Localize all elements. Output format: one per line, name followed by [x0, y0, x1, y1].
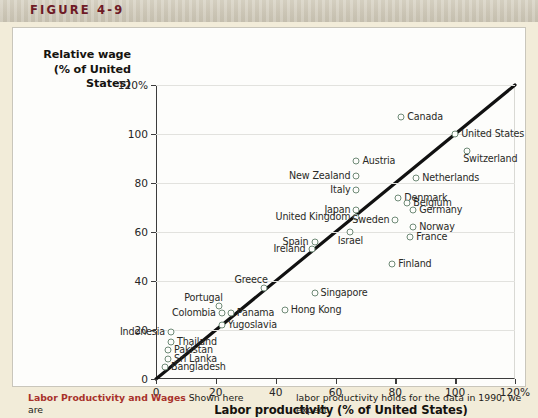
data-point [410, 206, 417, 213]
caption-right-column: labor productivity holds for the data in… [296, 392, 538, 416]
data-point [311, 238, 318, 245]
x-tick-mark [515, 379, 516, 384]
caption-left-column: Labor Productivity and Wages Shown here … [28, 392, 254, 416]
data-point-label: Netherlands [422, 173, 479, 183]
data-point [227, 309, 234, 316]
data-point-label: United Kingdom [276, 213, 351, 223]
y-gridline [156, 232, 515, 233]
data-point [161, 363, 168, 370]
data-point [353, 157, 360, 164]
data-point-label: Sweden [352, 215, 389, 225]
data-point-label: Finland [398, 259, 431, 269]
y-tick-mark [151, 134, 156, 135]
data-point [389, 260, 396, 267]
data-point [167, 329, 174, 336]
scatter-plot-area: 020406080100120%020406080100120%CanadaUn… [156, 85, 515, 379]
y-gridline [156, 330, 515, 331]
x-tick-mark [276, 379, 277, 384]
y-gridline [156, 281, 515, 282]
y-gridline [156, 85, 515, 86]
data-point [407, 233, 414, 240]
caption-title: Labor Productivity and Wages [28, 392, 186, 403]
data-point [215, 302, 222, 309]
x-tick-mark [455, 379, 456, 384]
data-point-label: Yugoslavia [228, 320, 277, 330]
y-axis-title-line-1: Relative wage [27, 48, 131, 63]
data-point [410, 224, 417, 231]
y-tick-label: 120% [118, 80, 148, 91]
data-point-label: Bangladesh [171, 362, 226, 372]
y-tick-mark [151, 281, 156, 282]
y-axis-title-line-3: States) [27, 77, 131, 92]
data-point [353, 172, 360, 179]
y-axis-title-line-2: (% of United [27, 63, 131, 78]
data-point-label: Panama [237, 308, 275, 318]
data-point [398, 113, 405, 120]
data-point-label: Portugal [184, 293, 223, 303]
x-tick-mark [156, 379, 157, 384]
data-point-label: United States [461, 129, 524, 139]
y-tick-label: 80 [135, 178, 148, 189]
data-point-label: Colombia [172, 308, 216, 318]
data-point-label: Ireland [273, 244, 305, 254]
data-point-label: Italy [330, 186, 350, 196]
data-point [218, 309, 225, 316]
figure-root: FIGURE 4-9 Relative wage (% of United St… [0, 0, 538, 418]
x-tick-label: 40 [269, 387, 282, 398]
x-tick-mark [336, 379, 337, 384]
data-point-label: Singapore [321, 288, 368, 298]
y-tick-label: 100 [128, 129, 148, 140]
data-point [353, 187, 360, 194]
data-point [392, 216, 399, 223]
data-point [395, 194, 402, 201]
y-tick-label: 60 [135, 227, 148, 238]
data-point [311, 290, 318, 297]
figure-panel: Relative wage (% of United States) 02040… [12, 27, 526, 387]
data-point-label: Hong Kong [291, 306, 342, 316]
data-point [353, 206, 360, 213]
data-point-label: Israel [338, 236, 363, 246]
y-tick-label: 0 [141, 374, 148, 385]
data-point-label: Greece [234, 276, 267, 286]
y-tick-mark [151, 85, 156, 86]
data-point [164, 346, 171, 353]
data-point [308, 246, 315, 253]
data-point [260, 285, 267, 292]
data-point [404, 199, 411, 206]
data-point [452, 131, 459, 138]
x-tick-mark [395, 379, 396, 384]
data-point-label: New Zealand [289, 171, 350, 181]
y-tick-mark [151, 232, 156, 233]
y-tick-mark [151, 183, 156, 184]
y-axis-title: Relative wage (% of United States) [27, 48, 131, 92]
data-point [218, 322, 225, 329]
data-point-label: Canada [407, 112, 443, 122]
data-point-label: Indonesia [120, 328, 165, 338]
data-point [413, 175, 420, 182]
data-point-label: Germany [419, 205, 462, 215]
data-point-label: Austria [362, 156, 395, 166]
y-tick-label: 40 [135, 276, 148, 287]
data-point-label: Switzerland [463, 154, 517, 164]
data-point [281, 307, 288, 314]
data-point-label: France [416, 232, 447, 242]
figure-number-label: FIGURE 4-9 [30, 3, 124, 17]
x-tick-mark [216, 379, 217, 384]
